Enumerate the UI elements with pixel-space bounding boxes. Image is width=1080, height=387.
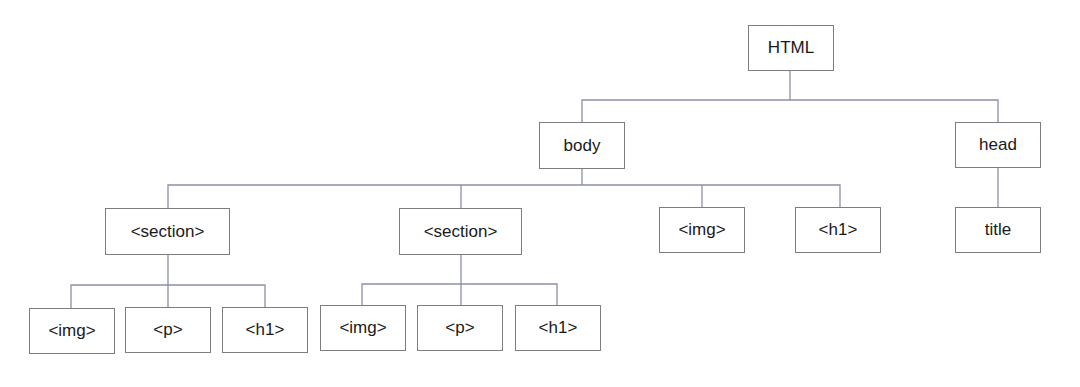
node-html: HTML bbox=[748, 25, 834, 71]
node-body: body bbox=[539, 122, 625, 169]
node-body-h1: <h1> bbox=[795, 207, 881, 253]
node-title: title bbox=[955, 207, 1041, 253]
node-section-1-p: <p> bbox=[125, 307, 211, 353]
node-section-1-img: <img> bbox=[29, 308, 115, 354]
node-section-2-p: <p> bbox=[417, 305, 503, 351]
connector-line bbox=[362, 284, 557, 305]
node-head: head bbox=[955, 122, 1041, 168]
html-dom-tree-diagram: HTML body head <section> <section> <img>… bbox=[0, 0, 1080, 387]
node-section-2-h1: <h1> bbox=[515, 305, 601, 351]
node-section-2-img: <img> bbox=[320, 305, 406, 351]
node-section-2: <section> bbox=[399, 208, 522, 255]
connector-line bbox=[168, 185, 840, 208]
node-body-img: <img> bbox=[659, 207, 745, 253]
node-section-1-h1: <h1> bbox=[222, 307, 308, 353]
connector-line bbox=[582, 100, 998, 122]
node-section-1: <section> bbox=[105, 208, 230, 255]
